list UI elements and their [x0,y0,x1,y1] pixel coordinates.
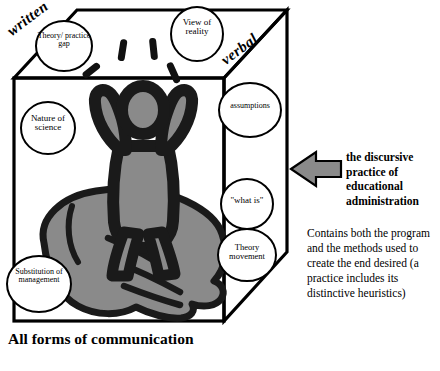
bubble-label-what-is: "what is" [222,196,272,205]
bubble-label-theory-movement: Theory movement [218,243,276,261]
annotation-body: Contains both the program and the method… [307,226,439,301]
bubble-label-substitution-of-management: Substitution of management [7,268,71,285]
bubble-label-nature-of-science: Nature of science [23,114,73,133]
figure-leg-left [112,232,139,276]
diagram-canvas: written verbal Theory/ practice gap View… [0,0,440,371]
bubble-label-view-of-reality: View of reality [173,18,221,37]
bubble-label-theory-practice-gap: Theory/ practice gap [36,32,92,49]
figure-head [122,86,164,134]
bubble-label-assumptions: assumptions [219,102,281,110]
left-arrow [291,152,341,186]
annotation-headline: the discursive practice of educational a… [346,150,440,209]
diagram-caption: All forms of communication [8,330,194,348]
